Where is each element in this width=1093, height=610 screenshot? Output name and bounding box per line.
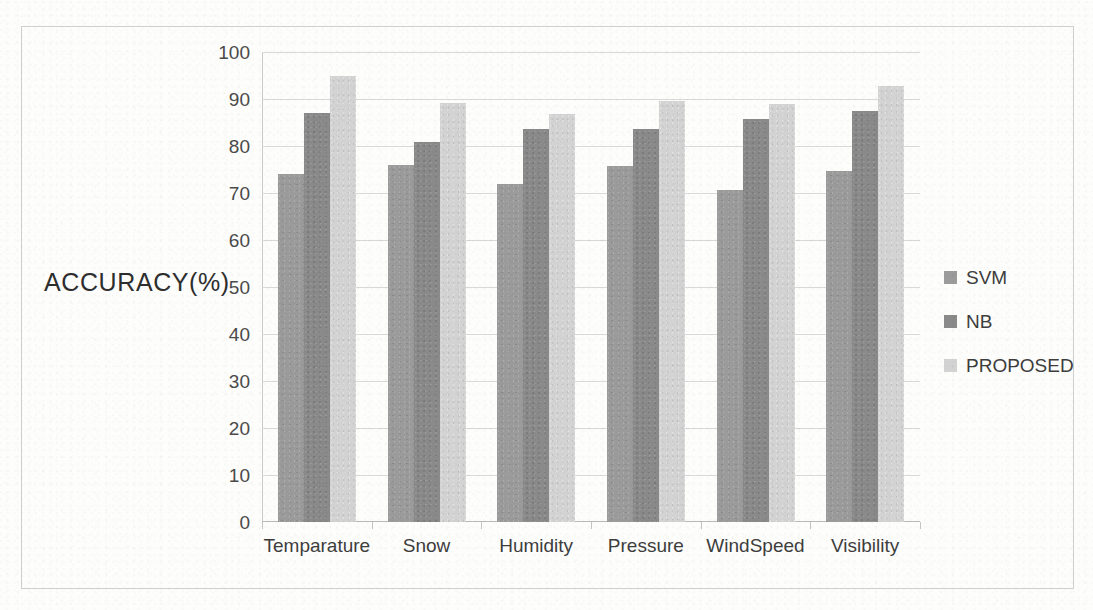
bar-svm-humidity <box>497 184 523 522</box>
bar-nb-windspeed <box>743 119 769 522</box>
bar-svm-snow <box>388 165 414 522</box>
plot-area <box>262 52 920 522</box>
gridline <box>262 146 920 147</box>
bar-nb-pressure <box>633 129 659 522</box>
y-axis-tick-label: 10 <box>229 466 250 485</box>
y-axis-tick-label: 90 <box>229 90 250 109</box>
gridline <box>262 428 920 429</box>
x-axis-tick-mark <box>262 522 263 529</box>
gridline <box>262 99 920 100</box>
gridline <box>262 381 920 382</box>
x-axis-tick-mark <box>701 522 702 529</box>
bar-group <box>497 52 575 522</box>
x-axis-label: Pressure <box>591 536 701 555</box>
bar-proposed-temparature <box>330 76 356 523</box>
gridline <box>262 475 920 476</box>
gridline <box>262 193 920 194</box>
legend-swatch-icon <box>944 271 957 284</box>
x-axis-label: Visibility <box>810 536 920 555</box>
bar-chart: ACCURACY(%) 0102030405060708090100 SVMNB… <box>0 0 1093 610</box>
bar-group <box>826 52 904 522</box>
bar-nb-snow <box>414 142 440 522</box>
y-axis-tick-label: 70 <box>229 184 250 203</box>
y-axis-tick-label: 20 <box>229 419 250 438</box>
bar-svm-windspeed <box>717 190 743 522</box>
bar-group <box>388 52 466 522</box>
gridline <box>262 240 920 241</box>
x-axis-label: Humidity <box>481 536 591 555</box>
bar-group <box>607 52 685 522</box>
legend-label: PROPOSED <box>966 356 1074 375</box>
gridline <box>262 52 920 53</box>
bar-proposed-snow <box>440 103 466 522</box>
legend-label: SVM <box>966 268 1007 287</box>
bar-svm-temparature <box>278 174 304 522</box>
chart-legend: SVMNBPROPOSED <box>944 255 1084 387</box>
y-axis-tick-label: 40 <box>229 325 250 344</box>
y-axis-tick-label: 60 <box>229 231 250 250</box>
y-axis-tick-label: 0 <box>239 513 250 532</box>
x-axis-tick-mark <box>372 522 373 529</box>
x-axis-label: WindSpeed <box>701 536 811 555</box>
y-axis-tick-labels: 0102030405060708090100 <box>198 52 250 522</box>
bar-proposed-humidity <box>549 114 575 522</box>
gridline <box>262 287 920 288</box>
y-axis-tick-label: 50 <box>229 278 250 297</box>
bar-svm-visibility <box>826 171 852 522</box>
x-axis-label: Snow <box>372 536 482 555</box>
y-axis-tick-label: 30 <box>229 372 250 391</box>
x-axis-tick-mark <box>920 522 921 529</box>
legend-swatch-icon <box>944 359 957 372</box>
y-axis-tick-label: 100 <box>218 43 250 62</box>
y-axis-tick-label: 80 <box>229 137 250 156</box>
bar-svm-pressure <box>607 166 633 522</box>
bar-proposed-pressure <box>659 101 685 522</box>
legend-swatch-icon <box>944 315 957 328</box>
x-axis-tick-mark <box>591 522 592 529</box>
bar-group <box>278 52 356 522</box>
bar-nb-visibility <box>852 111 878 522</box>
gridline <box>262 334 920 335</box>
x-axis-tick-mark <box>810 522 811 529</box>
x-axis-label: Temparature <box>262 536 372 555</box>
bar-proposed-windspeed <box>769 104 795 522</box>
legend-item-proposed[interactable]: PROPOSED <box>944 343 1084 387</box>
bar-group <box>717 52 795 522</box>
bar-proposed-visibility <box>878 86 904 522</box>
bar-nb-humidity <box>523 129 549 522</box>
legend-label: NB <box>966 312 992 331</box>
legend-item-nb[interactable]: NB <box>944 299 1084 343</box>
bar-nb-temparature <box>304 113 330 522</box>
legend-item-svm[interactable]: SVM <box>944 255 1084 299</box>
x-axis-tick-mark <box>481 522 482 529</box>
